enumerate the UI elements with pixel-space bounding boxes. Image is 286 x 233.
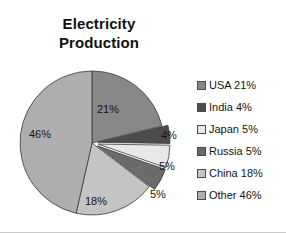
legend-item[interactable]: India 4%: [197, 96, 285, 118]
slice-value-label: 21%: [97, 103, 119, 115]
legend-swatch-icon: [197, 125, 206, 134]
slice-value-label-outside: 5%: [150, 188, 166, 200]
legend-item[interactable]: Japan 5%: [197, 118, 285, 140]
legend-swatch-icon: [197, 81, 206, 90]
pie-svg: 21%18%46% 4%5%5%: [0, 58, 196, 233]
legend-item[interactable]: Other 46%: [197, 184, 285, 206]
legend-item-label: India 4%: [209, 101, 252, 113]
slice-value-label: 46%: [29, 128, 51, 140]
legend-swatch-icon: [197, 103, 206, 112]
legend-swatch-icon: [197, 191, 206, 200]
legend-item[interactable]: China 18%: [197, 162, 285, 184]
pie-slice[interactable]: [20, 71, 92, 213]
pie-plot-area: 21%18%46% 4%5%5%: [0, 58, 196, 233]
chart-legend: USA 21%India 4%Japan 5%Russia 5%China 18…: [197, 74, 285, 206]
legend-item-label: Russia 5%: [209, 145, 262, 157]
slice-value-label-outside: 4%: [161, 129, 177, 141]
pie-chart-figure: Electricity Production 21%18%46% 4%5%5% …: [0, 0, 286, 233]
legend-item[interactable]: Russia 5%: [197, 140, 285, 162]
slice-value-label-outside: 5%: [159, 160, 175, 172]
legend-item-label: China 18%: [209, 167, 263, 179]
legend-item[interactable]: USA 21%: [197, 74, 285, 96]
pie-slice-group: [20, 71, 170, 215]
slice-value-label: 18%: [85, 195, 107, 207]
legend-swatch-icon: [197, 169, 206, 178]
legend-item-label: Other 46%: [209, 189, 262, 201]
legend-swatch-icon: [197, 147, 206, 156]
chart-title: Electricity Production: [24, 14, 174, 52]
legend-item-label: Japan 5%: [209, 123, 258, 135]
legend-item-label: USA 21%: [209, 79, 256, 91]
